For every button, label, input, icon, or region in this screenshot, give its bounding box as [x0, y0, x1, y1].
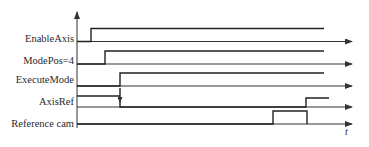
waveform-execute-mode	[77, 73, 324, 86]
signal-label-execute-mode: ExecuteMode	[16, 74, 75, 85]
signal-reference-cam: Reference cam	[11, 111, 352, 129]
time-axis-label: t	[345, 126, 348, 137]
signal-label-axis-ref: AxisRef	[39, 96, 75, 107]
signal-label-reference-cam: Reference cam	[11, 118, 74, 129]
signal-mode-pos: ModePos=4	[23, 51, 352, 66]
waveform-enable-axis	[77, 29, 324, 42]
signal-label-mode-pos: ModePos=4	[23, 55, 75, 66]
signal-enable-axis: EnableAxis	[25, 29, 352, 45]
signal-label-enable-axis: EnableAxis	[25, 33, 74, 44]
timing-diagram: EnableAxis ModePos=4 ExecuteMode AxisRef…	[0, 0, 369, 147]
waveform-reference-cam	[77, 111, 307, 124]
waveform-axis-ref	[120, 98, 329, 107]
waveform-mode-pos	[77, 51, 324, 64]
signal-execute-mode: ExecuteMode	[16, 73, 352, 86]
signal-axis-ref: AxisRef	[39, 88, 352, 107]
